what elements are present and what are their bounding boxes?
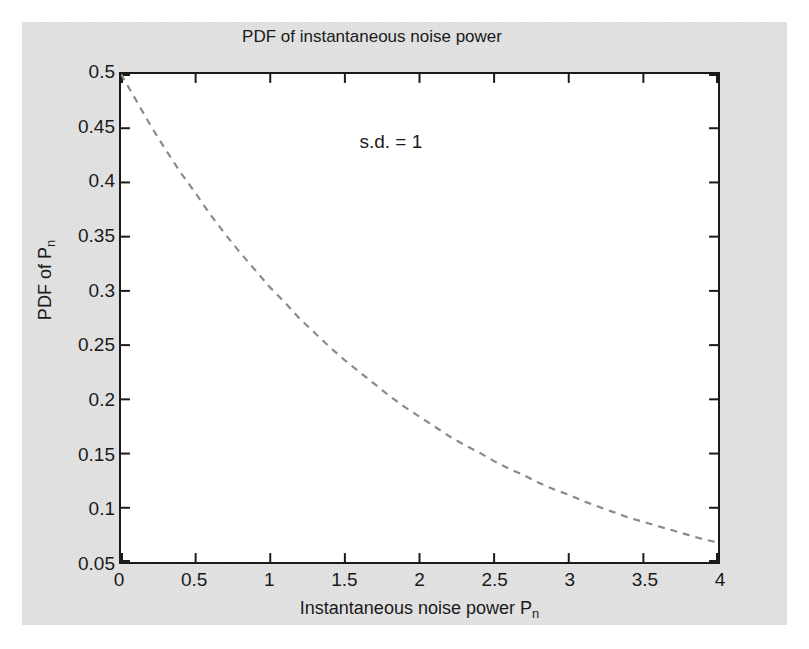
y-tick-label: 0.05 <box>78 553 115 575</box>
x-tick-label: 2 <box>414 569 425 591</box>
x-axis-label-subscript: n <box>532 606 539 621</box>
y-tick-label: 0.4 <box>89 170 115 192</box>
x-tick-label: 1.5 <box>331 569 357 591</box>
y-tick-label: 0.3 <box>89 280 115 302</box>
y-tick-label: 0.2 <box>89 389 115 411</box>
chart-figure: PDF of instantaneous noise power 0.050.1… <box>22 22 787 625</box>
x-tick-label: 0.5 <box>181 569 207 591</box>
page-canvas: a c. based a, ran mt. la gr lal.ou ing a… <box>0 0 809 649</box>
x-tick-label: 2.5 <box>481 569 507 591</box>
y-tick-label: 0.45 <box>78 116 115 138</box>
y-tick-label: 0.15 <box>78 444 115 466</box>
y-axis-label-wrapper: PDF of Pn <box>35 170 59 390</box>
y-axis-label-text: PDF of P <box>35 247 55 320</box>
y-tick-label: 0.25 <box>78 334 115 356</box>
x-tick-label: 0 <box>114 569 125 591</box>
x-tick-label: 3 <box>564 569 575 591</box>
y-axis-label: PDF of Pn <box>35 240 55 320</box>
x-axis-label-text: Instantaneous noise power P <box>300 598 532 618</box>
y-tick-label: 0.35 <box>78 225 115 247</box>
x-tick-label: 1 <box>264 569 275 591</box>
x-axis-tick-labels: 00.511.522.533.54 <box>119 569 720 597</box>
x-tick-label: 4 <box>715 569 726 591</box>
x-tick-label: 3.5 <box>632 569 658 591</box>
y-tick-label: 0.5 <box>89 61 115 83</box>
y-axis-label-subscript: n <box>43 240 58 247</box>
chart-annotation-sd: s.d. = 1 <box>359 131 422 153</box>
y-tick-label: 0.1 <box>89 498 115 520</box>
x-axis-label: Instantaneous noise power Pn <box>119 598 720 621</box>
chart-title: PDF of instantaneous noise power <box>22 27 722 47</box>
